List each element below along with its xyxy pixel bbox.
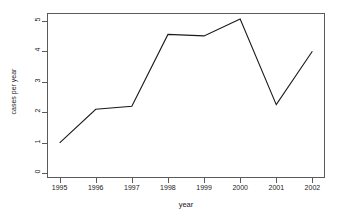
- x-tick-1998: [168, 178, 169, 183]
- y-tick-label-text: 3: [35, 78, 42, 82]
- x-tick-label-1995: 1995: [40, 184, 80, 191]
- x-tick-label-1996: 1996: [76, 184, 116, 191]
- data-line-cases-per-year: [60, 19, 313, 143]
- x-tick-1997: [132, 178, 133, 183]
- x-tick-1999: [204, 178, 205, 183]
- y-tick-4: [42, 51, 47, 52]
- y-tick-label-3: 3: [0, 77, 40, 84]
- x-tick-2001: [276, 178, 277, 183]
- y-tick-label-text: 0: [35, 170, 42, 174]
- x-tick-1995: [60, 178, 61, 183]
- y-tick-label-text: 4: [35, 48, 42, 52]
- line-series-plot: [47, 13, 325, 178]
- x-tick-label-2000: 2000: [220, 184, 260, 191]
- chart-screenshot: 012345 19951996199719981999200020012002 …: [0, 0, 340, 223]
- x-tick-2002: [312, 178, 313, 183]
- y-tick-label-2: 2: [0, 107, 40, 114]
- y-tick-label-1: 1: [0, 138, 40, 145]
- x-tick-label-1997: 1997: [112, 184, 152, 191]
- x-tick-label-1999: 1999: [184, 184, 224, 191]
- y-tick-2: [42, 112, 47, 113]
- x-tick-label-2002: 2002: [292, 184, 332, 191]
- y-tick-label-4: 4: [0, 46, 40, 53]
- y-tick-label-text: 1: [35, 139, 42, 143]
- x-tick-label-1998: 1998: [148, 184, 188, 191]
- x-tick-label-2001: 2001: [256, 184, 296, 191]
- y-tick-1: [42, 143, 47, 144]
- y-tick-3: [42, 82, 47, 83]
- y-tick-0: [42, 173, 47, 174]
- y-tick-label-text: 5: [35, 17, 42, 21]
- y-tick-label-0: 0: [0, 168, 40, 175]
- x-axis-title: year: [47, 200, 325, 209]
- y-axis-title: cases per year: [10, 47, 17, 137]
- x-tick-1996: [96, 178, 97, 183]
- y-tick-label-text: 2: [35, 109, 42, 113]
- y-tick-5: [42, 21, 47, 22]
- y-tick-label-5: 5: [0, 16, 40, 23]
- x-tick-2000: [240, 178, 241, 183]
